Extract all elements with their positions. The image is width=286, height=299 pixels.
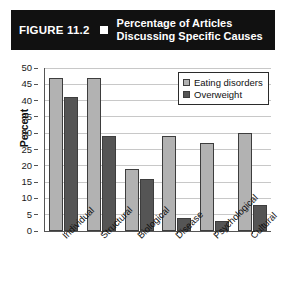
y-axis-tick-mark bbox=[34, 116, 38, 117]
y-axis-title: Percent bbox=[18, 98, 30, 158]
y-axis-tick-mark bbox=[34, 133, 38, 134]
legend-swatch-icon bbox=[183, 79, 190, 86]
y-axis-tick-mark bbox=[34, 68, 38, 69]
legend-item-label: Eating disorders bbox=[194, 78, 263, 88]
y-axis-tick-label: 20 bbox=[21, 161, 32, 170]
y-axis-tick-label: 50 bbox=[21, 63, 32, 72]
chart-legend: Eating disordersOverweight bbox=[178, 72, 269, 105]
y-axis-tick-mark bbox=[34, 231, 38, 232]
y-axis-tick-label: 45 bbox=[21, 79, 32, 88]
figure-title-line-2: Discussing Specific Causes bbox=[117, 30, 263, 44]
y-axis-tick-mark bbox=[34, 165, 38, 166]
figure-title: Percentage of Articles Discussing Specif… bbox=[117, 17, 263, 44]
square-bullet-icon bbox=[100, 26, 108, 34]
figure-number: FIGURE 11.2 bbox=[19, 24, 90, 36]
y-axis-tick-label: 10 bbox=[21, 193, 32, 202]
y-axis-tick-label: 0 bbox=[27, 226, 32, 235]
figure-title-line-1: Percentage of Articles bbox=[117, 17, 263, 31]
y-axis-tick-mark bbox=[34, 149, 38, 150]
y-axis-tick-mark bbox=[34, 198, 38, 199]
y-axis-tick-label: 5 bbox=[27, 210, 32, 219]
bar bbox=[125, 169, 139, 231]
bar bbox=[64, 97, 78, 231]
y-axis-tick-mark bbox=[34, 182, 38, 183]
legend-item: Eating disorders bbox=[183, 77, 263, 88]
y-axis-tick-label: 15 bbox=[21, 177, 32, 186]
figure-title-bar: FIGURE 11.2 Percentage of Articles Discu… bbox=[11, 10, 275, 50]
y-axis-tick-mark bbox=[34, 84, 38, 85]
y-axis-tick-mark bbox=[34, 100, 38, 101]
legend-item-label: Overweight bbox=[194, 90, 242, 100]
bar-group bbox=[49, 68, 78, 231]
legend-swatch-icon bbox=[183, 91, 190, 98]
bar bbox=[49, 78, 63, 231]
x-axis-ticks: IndividualStructuralBiologicalDiseasePsy… bbox=[45, 233, 285, 299]
figure-container: FIGURE 11.2 Percentage of Articles Discu… bbox=[0, 0, 286, 299]
y-axis-tick-mark bbox=[34, 214, 38, 215]
bar-group bbox=[87, 68, 116, 231]
legend-item: Overweight bbox=[183, 89, 263, 100]
